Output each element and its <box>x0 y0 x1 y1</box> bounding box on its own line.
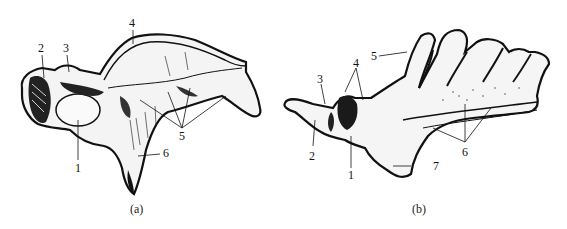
caption-b: (b) <box>412 203 426 215</box>
label-3: 3 <box>63 42 69 54</box>
label-6: 6 <box>462 146 468 158</box>
caption-a: (a) <box>130 203 143 215</box>
label-2: 2 <box>38 42 44 54</box>
label-5: 5 <box>371 50 377 62</box>
vertebra-lateral-drawing <box>0 0 283 229</box>
label-7: 7 <box>433 160 439 172</box>
label-1: 1 <box>75 162 81 174</box>
label-5: 5 <box>179 130 185 142</box>
label-2: 2 <box>309 150 315 162</box>
figure-b: 1 2 3 4 5 6 7 (b) <box>283 0 567 229</box>
label-4: 4 <box>353 57 359 69</box>
label-1: 1 <box>348 169 354 181</box>
figure-a: 1 2 3 4 5 6 (a) <box>0 0 283 229</box>
label-4: 4 <box>129 17 135 29</box>
vertebra-dorsal-drawing <box>283 0 567 229</box>
label-3: 3 <box>317 73 323 85</box>
label-6: 6 <box>163 147 169 159</box>
